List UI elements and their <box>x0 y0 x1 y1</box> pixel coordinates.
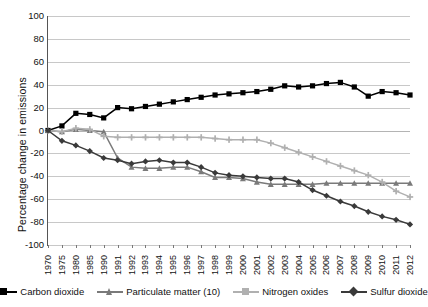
data-point-marker <box>240 136 246 142</box>
data-point-marker <box>157 102 162 107</box>
data-point-marker <box>337 198 343 204</box>
data-point-marker <box>407 194 413 200</box>
data-point-marker <box>380 89 385 94</box>
data-point-marker <box>268 140 274 146</box>
data-point-marker <box>295 149 301 155</box>
data-point-marker <box>184 159 190 165</box>
data-point-marker <box>254 174 260 180</box>
x-tick-label-text: 1996 <box>182 252 192 278</box>
legend-marker-icon <box>0 287 17 296</box>
data-point-marker <box>129 106 134 111</box>
data-point-marker <box>268 175 274 181</box>
x-axis-tick-mark <box>90 245 91 248</box>
x-axis-tick-mark <box>313 245 314 248</box>
x-tick-label-text: 2005 <box>308 252 318 278</box>
data-point-marker <box>309 154 315 160</box>
data-point-marker <box>323 158 329 164</box>
y-tick-label: 60 <box>14 57 44 67</box>
x-tick-label-text: 1980 <box>71 252 81 278</box>
x-axis-tick-mark <box>243 245 244 248</box>
legend-item[interactable]: Carbon dioxide <box>0 286 84 297</box>
x-axis-tick-mark <box>145 245 146 248</box>
plot-area <box>48 16 410 245</box>
y-tick-label: 80 <box>14 34 44 44</box>
data-point-marker <box>101 115 106 120</box>
data-point-marker <box>366 94 371 99</box>
data-point-marker <box>281 144 287 150</box>
y-tick-label: -60 <box>14 194 44 204</box>
data-point-marker <box>254 136 260 142</box>
x-axis-tick-mark <box>354 245 355 248</box>
data-point-marker <box>198 164 204 170</box>
data-point-marker <box>198 134 204 140</box>
x-tick-label-text: 1992 <box>127 252 137 278</box>
data-point-marker <box>199 95 204 100</box>
data-point-marker <box>170 134 176 140</box>
series-carbon-dioxide <box>45 80 412 133</box>
x-tick-label-text: 2000 <box>238 252 248 278</box>
x-axis-tick-mark <box>285 245 286 248</box>
data-point-marker <box>365 209 371 215</box>
data-point-marker <box>115 105 120 110</box>
series-nitrogen-oxides <box>45 125 413 200</box>
x-tick-label-text: 2010 <box>377 252 387 278</box>
x-tick-label-text: 2001 <box>252 252 262 278</box>
y-tick-label: -20 <box>14 148 44 158</box>
data-point-marker <box>142 134 148 140</box>
x-axis-tick-mark <box>299 245 300 248</box>
x-axis-tick-mark <box>173 245 174 248</box>
data-point-marker <box>379 213 385 219</box>
data-point-marker <box>87 112 92 117</box>
data-point-marker <box>351 167 357 173</box>
data-point-marker <box>184 134 190 140</box>
y-tick-label: 100 <box>14 11 44 21</box>
data-point-marker <box>185 97 190 102</box>
legend-item[interactable]: Particulate matter (10) <box>97 286 220 297</box>
x-tick-label-text: 2012 <box>405 252 415 278</box>
x-tick-label-text: 2003 <box>280 252 290 278</box>
data-point-marker <box>351 203 357 209</box>
x-tick-label-text: 1985 <box>85 252 95 278</box>
x-tick-label-text: 2009 <box>363 252 373 278</box>
x-axis-tick-mark <box>118 245 119 248</box>
data-point-marker <box>73 111 78 116</box>
x-axis-tick-mark <box>396 245 397 248</box>
legend-item[interactable]: Sulfur dioxide <box>341 286 428 297</box>
data-point-marker <box>282 175 288 181</box>
data-point-marker <box>226 136 232 142</box>
data-point-marker <box>212 170 218 176</box>
legend-marker-icon <box>341 287 367 296</box>
data-point-marker <box>115 157 121 163</box>
x-axis-tick-mark <box>132 245 133 248</box>
x-tick-label-text: 1970 <box>43 252 53 278</box>
data-point-marker <box>407 92 412 97</box>
data-point-marker <box>310 83 315 88</box>
data-point-marker <box>226 91 231 96</box>
data-point-marker <box>114 134 120 140</box>
x-tick-label-text: 1993 <box>140 252 150 278</box>
x-axis-tick-mark <box>62 245 63 248</box>
legend-label: Sulfur dioxide <box>370 286 428 297</box>
data-point-marker <box>254 89 259 94</box>
x-tick-label-text: 2011 <box>391 252 401 278</box>
y-tick-label: -40 <box>14 171 44 181</box>
x-tick-label-text: 1997 <box>196 252 206 278</box>
x-tick-label-text: 2004 <box>294 252 304 278</box>
x-tick-label-text: 1995 <box>168 252 178 278</box>
data-point-marker <box>170 159 176 165</box>
x-axis-tick-mark <box>229 245 230 248</box>
y-tick-label: 20 <box>14 103 44 113</box>
x-tick-label-text: 2007 <box>335 252 345 278</box>
x-axis-tick-mark <box>215 245 216 248</box>
y-tick-label: -80 <box>14 217 44 227</box>
x-axis-tick-mark <box>48 245 49 248</box>
data-point-marker <box>240 90 245 95</box>
series-line <box>48 82 410 130</box>
data-point-marker <box>171 99 176 104</box>
legend-item[interactable]: Nitrogen oxides <box>233 286 328 297</box>
legend-label: Nitrogen oxides <box>262 286 328 297</box>
data-point-marker <box>309 187 315 193</box>
data-point-marker <box>393 217 399 223</box>
y-tick-label: -100 <box>14 240 44 250</box>
